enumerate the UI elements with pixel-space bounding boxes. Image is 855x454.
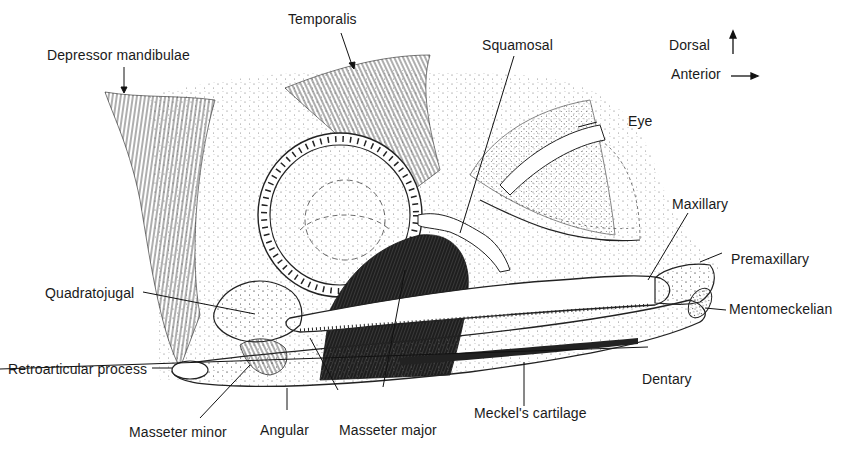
label-dorsal: Dorsal <box>669 37 710 53</box>
label-quadratojugal: Quadratojugal <box>45 285 134 301</box>
anatomical-figure: Dorsal Anterior Depressor mandibulae Tem… <box>0 0 855 454</box>
label-masseter-major: Masseter major <box>339 422 437 438</box>
orientation-arrows <box>730 31 758 79</box>
label-meckels-cartilage: Meckel's cartilage <box>474 405 587 421</box>
label-masseter-minor: Masseter minor <box>129 424 227 440</box>
label-mentomeckelian: Mentomeckelian <box>729 301 832 317</box>
label-retroarticular-process: Retroarticular process <box>8 361 147 377</box>
label-anterior: Anterior <box>671 66 721 82</box>
arrow-up-icon <box>730 31 736 38</box>
label-temporalis: Temporalis <box>288 11 357 27</box>
label-premaxillary: Premaxillary <box>731 251 809 267</box>
retroarticular-process <box>172 361 208 379</box>
jaw-illustration <box>0 0 855 454</box>
label-maxillary: Maxillary <box>672 196 728 212</box>
label-eye: Eye <box>628 113 652 129</box>
label-squamosal: Squamosal <box>482 37 553 53</box>
label-dentary: Dentary <box>642 371 692 387</box>
label-angular: Angular <box>260 422 309 438</box>
arrow-right-icon <box>751 73 758 79</box>
label-depressor-mandibulae: Depressor mandibulae <box>47 47 190 63</box>
